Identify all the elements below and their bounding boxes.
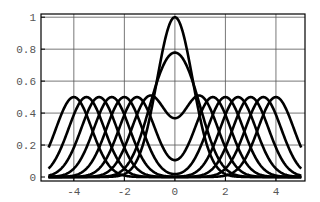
y-tick-label: 0.6 [16, 76, 36, 88]
x-tick-label: -2 [118, 186, 131, 198]
y-tick-label: 0 [29, 172, 36, 184]
y-tick-label: 0.2 [16, 140, 36, 152]
y-tick-label: 0.8 [16, 44, 36, 56]
x-tick-label: 4 [273, 186, 280, 198]
chart: -4-202400.20.40.60.81 [0, 0, 320, 202]
x-tick-label: 2 [222, 186, 229, 198]
x-tick-label: -4 [67, 186, 81, 198]
x-tick-label: 0 [172, 186, 179, 198]
y-tick-label: 0.4 [16, 108, 36, 120]
y-tick-label: 1 [29, 12, 36, 24]
